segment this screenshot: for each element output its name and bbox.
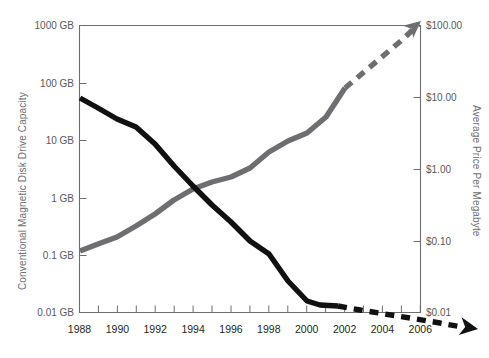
chart-container: 1000 GB 100 GB 10 GB 1 GB 0.1 GB 0.01 GB…: [0, 0, 489, 358]
left-tick-label-0.1gb: 0.1 GB: [43, 250, 74, 261]
right-axis-title: Average Price Per Megabyte: [471, 105, 482, 237]
left-axis-tick-labels: 1000 GB 100 GB 10 GB 1 GB 0.1 GB 0.01 GB: [35, 20, 75, 318]
x-tick-label-2004: 2004: [371, 323, 395, 335]
price-line-solid: [80, 98, 338, 306]
x-tick-label-1990: 1990: [106, 323, 130, 335]
capacity-line-solid: [80, 88, 345, 251]
left-tick-label-10gb: 10 GB: [46, 135, 75, 146]
left-tick-label-1000gb: 1000 GB: [35, 20, 75, 31]
right-tick-label-0.10: $0.10: [426, 236, 451, 247]
right-axis-ticks: [414, 26, 421, 313]
capacity-line-dashed: [345, 24, 419, 88]
disk-capacity-price-chart: 1000 GB 100 GB 10 GB 1 GB 0.1 GB 0.01 GB…: [0, 0, 489, 358]
x-tick-label-1996: 1996: [219, 323, 243, 335]
x-tick-label-2000: 2000: [295, 323, 319, 335]
series-capacity: [80, 15, 426, 251]
left-axis-title: Conventional Magnetic Disk Drive Capacit…: [17, 92, 28, 290]
x-tick-label-2006: 2006: [409, 323, 433, 335]
price-decline-arrow-icon: [459, 317, 480, 338]
left-axis-ticks: [80, 26, 87, 313]
left-tick-label-100gb: 100 GB: [40, 78, 74, 89]
x-tick-label-1994: 1994: [181, 323, 205, 335]
x-tick-label-1992: 1992: [144, 323, 168, 335]
series-price: [80, 98, 479, 338]
bottom-axis-tick-labels: 1988 1990 1992 1994 1996 1998 2000 2002 …: [68, 323, 432, 335]
right-tick-label-1: $1.00: [426, 164, 451, 175]
right-tick-label-10: $10.00: [426, 92, 457, 103]
right-tick-label-100: $100.00: [426, 20, 463, 31]
left-tick-label-0.01gb: 0.01 GB: [37, 307, 74, 318]
right-axis-tick-labels: $100.00 $10.00 $1.00 $0.10 $0.01: [426, 20, 463, 318]
bottom-axis-ticks: [80, 306, 421, 313]
x-tick-label-2002: 2002: [333, 323, 357, 335]
right-tick-label-0.01: $0.01: [426, 307, 451, 318]
x-tick-label-1988: 1988: [68, 323, 92, 335]
x-tick-label-1998: 1998: [257, 323, 281, 335]
left-tick-label-1gb: 1 GB: [51, 193, 74, 204]
